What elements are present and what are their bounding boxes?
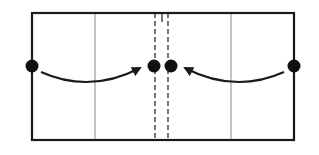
left-edge-dot	[26, 60, 39, 73]
right-edge-dot	[288, 60, 301, 73]
fold-diagram	[0, 0, 319, 155]
paper-outline	[32, 13, 294, 140]
right-fold-arrow	[185, 68, 284, 82]
center-left-dot	[148, 60, 161, 73]
left-fold-arrow	[41, 68, 140, 82]
center-right-dot	[165, 60, 178, 73]
